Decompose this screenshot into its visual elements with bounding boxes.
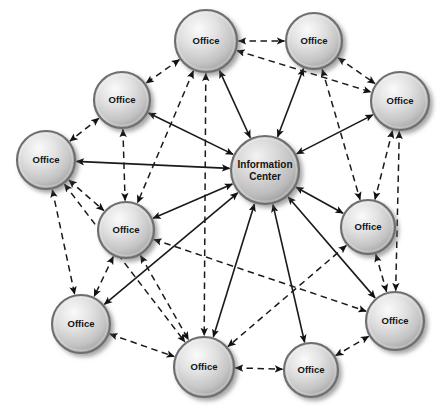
network-graph-canvas: InformationCenterOfficeOfficeOfficeOffic… (0, 0, 438, 417)
node-office-o11[interactable]: Office (284, 343, 338, 397)
edge-hub-o1 (220, 71, 251, 138)
edge-o2-o7 (322, 69, 360, 199)
node-office-o3[interactable]: Office (94, 72, 150, 128)
node-office-o5[interactable]: Office (17, 131, 75, 189)
edge-hub-o6 (153, 184, 232, 218)
edge-o4-o9 (396, 131, 400, 290)
office-label: Office (113, 224, 140, 235)
edge-o4-o7 (375, 131, 392, 200)
office-label: Office (109, 94, 136, 105)
edge-o5-o6 (69, 180, 104, 210)
node-office-o1[interactable]: Office (175, 10, 237, 72)
edge-o1-o10 (204, 74, 206, 336)
office-label: Office (33, 154, 60, 165)
edge-o3-o6 (123, 129, 125, 200)
edge-o2-o4 (338, 58, 375, 84)
office-label: Office (193, 35, 220, 46)
edge-o3-o5 (70, 118, 99, 141)
office-label: Office (387, 95, 414, 106)
node-office-o7[interactable]: Office (341, 200, 395, 254)
edge-o8-o10 (110, 334, 174, 357)
edge-hub-o10 (213, 204, 254, 337)
edge-hub-o4 (297, 115, 373, 154)
edge-hub-o7 (296, 187, 343, 213)
edge-hub-o2 (278, 69, 304, 137)
node-office-o4[interactable]: Office (371, 72, 429, 130)
office-label: Office (298, 364, 325, 375)
edge-o7-o9 (376, 254, 387, 291)
edge-o6-o8 (94, 257, 113, 297)
edge-hub-o3 (149, 113, 234, 154)
node-office-o9[interactable]: Office (366, 292, 424, 350)
edge-o7-o10 (228, 246, 346, 347)
network-diagram: InformationCenterOfficeOfficeOfficeOffic… (0, 0, 438, 417)
node-office-o2[interactable]: Office (286, 13, 342, 69)
edge-o10-o11 (235, 368, 282, 369)
office-label: Office (355, 221, 382, 232)
office-label: Office (382, 315, 409, 326)
node-office-o6[interactable]: Office (98, 202, 154, 258)
edge-hub-o11 (273, 205, 305, 343)
edge-o1-o3 (146, 60, 179, 83)
node-office-o8[interactable]: Office (52, 295, 110, 353)
office-label: Office (301, 35, 328, 46)
node-information-center[interactable]: InformationCenter (231, 136, 299, 204)
node-office-o10[interactable]: Office (174, 337, 234, 397)
edge-o6-o10 (141, 256, 189, 340)
edge-o9-o11 (336, 336, 369, 355)
edge-o5-o8 (52, 190, 74, 294)
office-label: Office (68, 318, 95, 329)
office-label: Office (191, 361, 218, 372)
